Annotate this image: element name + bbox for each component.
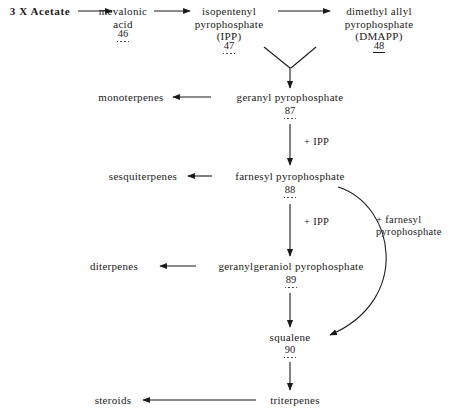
arrow-merge-right-branch bbox=[291, 47, 316, 68]
node-monoterpenes: monoterpenes bbox=[92, 91, 170, 104]
compound-number-dmapp: 48 bbox=[327, 40, 431, 51]
compound-number-geranylgeraniol-pyrophosphate-value: 89 bbox=[286, 274, 297, 285]
node-sesquiterpenes: sesquiterpenes bbox=[99, 170, 187, 183]
compound-number-mevalonic-acid-value: 46 bbox=[118, 28, 129, 39]
node-steroids: steroids bbox=[84, 394, 142, 407]
annotation-farnesyl-addition: + farnesyl pyrophosphate bbox=[376, 214, 468, 238]
compound-number-geranylgeraniol-pyrophosphate: 89 bbox=[198, 274, 384, 285]
node-acetate: 3 X Acetate bbox=[4, 5, 76, 18]
compound-number-dmapp-value: 48 bbox=[374, 40, 385, 51]
node-ipp: isopentenyl pyrophosphate (IPP) bbox=[179, 5, 279, 43]
node-geranyl-pyrophosphate: geranyl pyrophosphate bbox=[216, 91, 364, 104]
node-mevalonic-acid: mevalonic acid bbox=[93, 5, 153, 30]
annotation-ipp-addition-1: + IPP bbox=[304, 136, 329, 148]
compound-number-geranyl-pyrophosphate-value: 87 bbox=[285, 105, 296, 116]
arrow-layer bbox=[0, 0, 469, 419]
node-squalene: squalene bbox=[252, 331, 328, 344]
node-dmapp: dimethyl allyl pyrophosphate (DMAPP) bbox=[327, 5, 431, 43]
compound-number-farnesyl-pyrophosphate-value: 88 bbox=[285, 184, 296, 195]
node-geranylgeraniol-pyrophosphate: geranylgeraniol pyrophosphate bbox=[198, 260, 384, 273]
node-triterpenes: triterpenes bbox=[256, 394, 334, 407]
annotation-ipp-addition-2: + IPP bbox=[304, 216, 329, 228]
compound-number-farnesyl-pyrophosphate: 88 bbox=[218, 184, 362, 195]
compound-number-squalene: 90 bbox=[252, 344, 328, 355]
node-farnesyl-pyrophosphate: farnesyl pyrophosphate bbox=[218, 170, 362, 183]
compound-number-ipp-value: 47 bbox=[224, 40, 235, 51]
compound-number-ipp: 47 bbox=[179, 40, 279, 51]
compound-number-geranyl-pyrophosphate: 87 bbox=[216, 105, 364, 116]
node-diterpenes: diterpenes bbox=[78, 260, 150, 273]
compound-number-mevalonic-acid: 46 bbox=[93, 28, 153, 39]
compound-number-squalene-value: 90 bbox=[285, 344, 296, 355]
pathway-diagram: 3 X Acetate mevalonic acid 46 isopenteny… bbox=[0, 0, 469, 419]
